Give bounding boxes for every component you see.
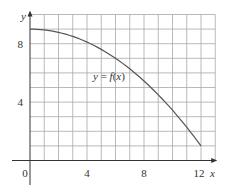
curve-annotation: y = f(x) [92,70,125,83]
x-tick-label: 0 [22,167,28,179]
x-tick-label: 12 [194,167,205,179]
grid [30,15,215,161]
tick-labels: 0481248 [18,38,205,179]
y-axis-label: y [20,10,26,22]
y-tick-label: 8 [18,38,24,50]
x-axis-label: x [209,167,215,179]
function-graph: 0481248 x y y = f(x) [0,0,227,188]
x-tick-label: 4 [84,167,90,179]
y-tick-label: 4 [18,96,24,108]
y-axis-arrow-icon [28,11,33,17]
x-axis-arrow-icon [211,158,217,163]
x-tick-label: 8 [141,167,147,179]
